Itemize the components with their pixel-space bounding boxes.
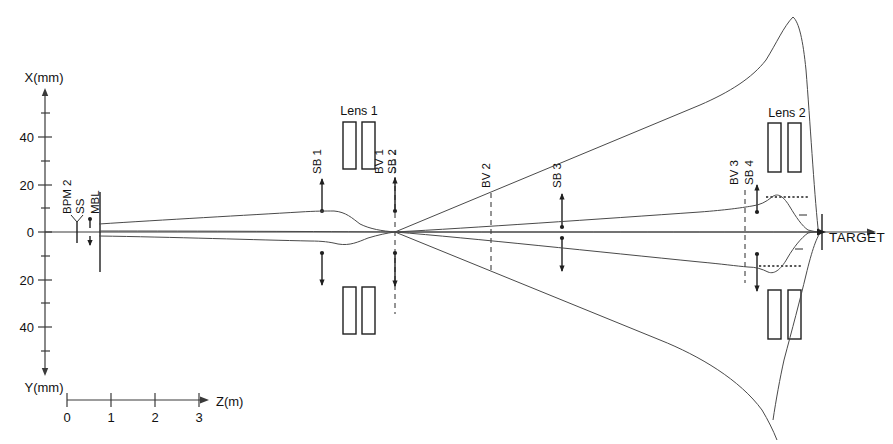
x-axis-label: X(mm)	[25, 70, 64, 85]
z-axis-label: Z(m)	[216, 394, 243, 409]
label-bv2: BV 2	[480, 163, 492, 188]
tick-label-x20: 20	[20, 178, 34, 193]
z-tick-0: 0	[63, 410, 70, 425]
label-bv1: BV 1	[373, 149, 385, 174]
tick-label-y20: 20	[20, 273, 34, 288]
y-axis-label: Y(mm)	[25, 380, 64, 395]
axis-arrow-up	[42, 88, 48, 96]
envelope-lower-y-inner	[773, 232, 821, 420]
label-ss: SS	[74, 198, 86, 214]
tick-label-x40: 40	[20, 130, 34, 145]
label-sb4: SB 4	[743, 159, 755, 185]
label-mbl: MBL	[89, 190, 101, 214]
figure-canvas: X(mm) Y(mm) 40 20 0 20 40 BPM 2 SS MBL	[0, 0, 893, 444]
z-axis-arrow	[200, 397, 209, 404]
label-bpm2: BPM 2	[61, 179, 73, 214]
envelope-lower-y-outer	[395, 232, 777, 440]
element-bpm2	[71, 215, 83, 243]
z-tick-3: 3	[195, 410, 202, 425]
element-target	[817, 214, 826, 250]
envelope-lower-x-left	[99, 232, 395, 245]
axis-arrow-down	[42, 368, 48, 376]
z-tick-2: 2	[151, 410, 158, 425]
label-lens1: Lens 1	[340, 104, 378, 118]
z-scale-bar	[67, 393, 209, 407]
label-target: TARGET	[829, 230, 885, 245]
envelope-upper-x-left	[99, 211, 395, 232]
beamline-diagram: X(mm) Y(mm) 40 20 0 20 40 BPM 2 SS MBL	[0, 0, 893, 444]
label-sb1: SB 1	[311, 149, 323, 174]
tick-label-y40: 40	[20, 320, 34, 335]
element-lens2	[768, 123, 801, 339]
label-sb2: SB 2	[386, 149, 398, 174]
tick-label-x0: 0	[27, 225, 34, 240]
z-tick-1: 1	[107, 410, 114, 425]
element-sb4	[754, 184, 759, 292]
label-lens2: Lens 2	[768, 106, 806, 120]
label-bv3: BV 3	[728, 160, 740, 185]
